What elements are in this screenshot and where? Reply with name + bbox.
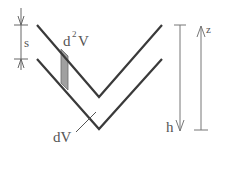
dv-label: dV <box>53 129 72 145</box>
outer-v-line <box>37 25 162 97</box>
z-label: z <box>206 23 211 35</box>
z-axis-arrow <box>194 26 208 130</box>
d2v-label-v: V <box>78 33 89 49</box>
inner-v-line <box>37 59 162 129</box>
d2v-label: d 2 V <box>63 29 89 49</box>
diagram-canvas: s d 2 V dV h z <box>0 0 225 175</box>
h-label: h <box>166 119 174 135</box>
d2v-label-d: d <box>63 33 71 49</box>
v-groove-diagram: s d 2 V dV h z <box>0 0 225 175</box>
d2v-label-sup: 2 <box>72 29 77 39</box>
h-dimension <box>174 25 186 131</box>
s-label: s <box>24 35 29 50</box>
